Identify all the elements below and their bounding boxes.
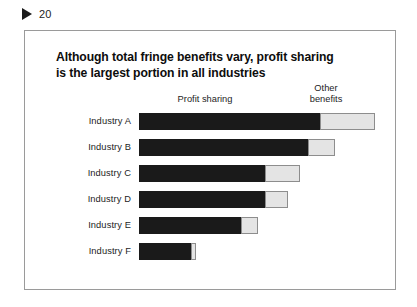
bar-track [139,243,387,260]
legend-label-other-benefits-line-2: benefits [291,94,361,105]
bar-segment-other-benefits [265,191,287,208]
bar-segment-profit-sharing [139,191,265,208]
bar-row-label: Industry A [25,116,131,126]
bar-segment-profit-sharing [139,139,308,156]
bar-row-label: Industry C [25,168,131,178]
page-title: Although total fringe benefits vary, pro… [56,50,366,81]
slide-frame: Although total fringe benefits vary, pro… [24,30,396,290]
bar-row: Industry E [25,217,397,234]
bar-segment-profit-sharing [139,217,241,234]
bar-segment-other-benefits [241,217,258,234]
bar-row-label: Industry E [25,220,131,230]
bar-segment-other-benefits [191,243,196,260]
slide-number: 20 [39,8,52,20]
legend-label-profit-sharing: Profit sharing [145,94,265,105]
bar-row-label: Industry F [25,246,131,256]
bar-segment-profit-sharing [139,243,191,260]
bar-segment-profit-sharing [139,165,265,182]
bar-row-label: Industry D [25,194,131,204]
page-title-line-1: Although total fringe benefits vary, pro… [56,50,366,66]
legend-label-other-benefits: Other benefits [291,83,361,105]
bar-track [139,191,387,208]
page-title-line-2: is the largest portion in all industries [56,66,366,82]
bar-row: Industry C [25,165,397,182]
bar-track [139,113,387,130]
slide-marker: 20 [22,8,52,20]
bar-row: Industry D [25,191,397,208]
bar-segment-profit-sharing [139,113,320,130]
bar-segment-other-benefits [308,139,335,156]
bar-track [139,139,387,156]
legend-label-other-benefits-line-1: Other [291,83,361,94]
bar-row: Industry F [25,243,397,260]
bar-track [139,165,387,182]
bar-row: Industry A [25,113,397,130]
bar-segment-other-benefits [265,165,300,182]
bar-track [139,217,387,234]
bar-row: Industry B [25,139,397,156]
bar-segment-other-benefits [320,113,375,130]
chart-plot-area: Industry AIndustry BIndustry CIndustry D… [25,113,397,278]
play-triangle-icon [22,8,32,20]
bar-row-label: Industry B [25,142,131,152]
